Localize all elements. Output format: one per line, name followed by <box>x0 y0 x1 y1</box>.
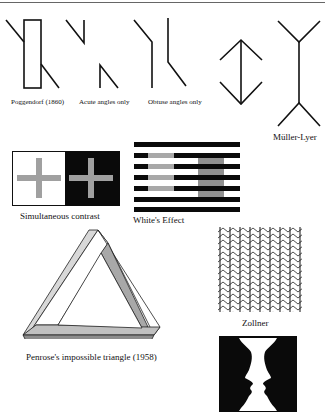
whites-effect-illusion <box>134 142 240 212</box>
caption-penrose-triangle: Penrose's impossible triangle (1958) <box>26 352 157 362</box>
caption-simultaneous-contrast: Simultaneous contrast <box>20 211 100 221</box>
caption-muller-lyer: Müller-Lyer <box>273 132 317 142</box>
poggendorf-illusion <box>4 16 64 92</box>
rubin-vase-illusion <box>219 336 297 412</box>
caption-obtuse-angles: Obtuse angles only <box>148 98 202 106</box>
acute-angles-illusion <box>64 16 124 92</box>
arrowheads-illusion <box>215 38 265 108</box>
obtuse-angles-illusion <box>130 14 190 92</box>
muller-lyer-illusion <box>275 18 325 128</box>
caption-whites-effect: White's Effect <box>133 215 184 225</box>
penrose-triangle-illusion <box>22 229 164 339</box>
caption-zollner: Zollner <box>242 318 269 328</box>
caption-poggendorf: Poggendorf (1860) <box>11 98 64 106</box>
simultaneous-contrast-illusion <box>12 151 120 206</box>
top-rule <box>0 2 325 3</box>
caption-acute-angles: Acute angles only <box>79 98 130 106</box>
zollner-illusion <box>218 227 302 312</box>
